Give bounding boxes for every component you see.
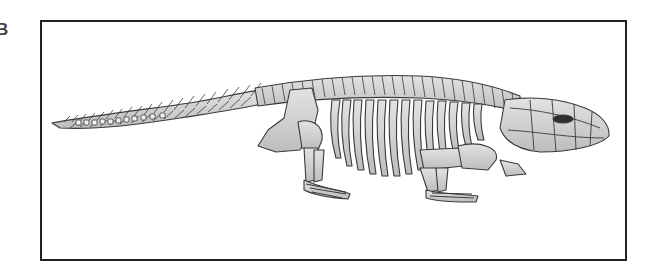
skull bbox=[500, 98, 609, 152]
skeleton-illustration bbox=[0, 0, 667, 280]
hind-foot bbox=[304, 180, 350, 199]
tail-vertebrae bbox=[52, 83, 262, 128]
orbit bbox=[553, 115, 573, 123]
shoulder-girdle bbox=[420, 148, 464, 170]
